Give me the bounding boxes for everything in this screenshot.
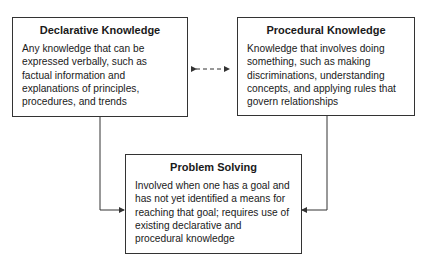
node-problem-solving: Problem Solving Involved when one has a … [125,154,302,254]
node-title: Declarative Knowledge [22,24,178,36]
node-title: Problem Solving [135,161,292,173]
node-title: Procedural Knowledge [247,24,405,36]
node-procedural-knowledge: Procedural Knowledge Knowledge that invo… [237,17,415,116]
node-description: Knowledge that involves doing something,… [247,42,405,108]
node-declarative-knowledge: Declarative Knowledge Any knowledge that… [12,17,188,117]
edge-procedural-problem [302,115,327,210]
edge-declarative-problem [100,116,124,210]
node-description: Any knowledge that can be expressed verb… [22,42,178,108]
node-description: Involved when one has a goal and has not… [135,179,292,245]
